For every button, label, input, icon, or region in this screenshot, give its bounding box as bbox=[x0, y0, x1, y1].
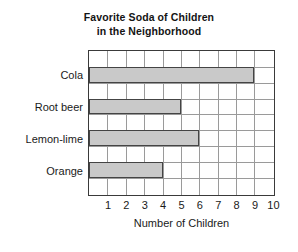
bar-orange bbox=[89, 162, 163, 178]
gridline-y-4 bbox=[89, 114, 274, 115]
chart-title: Favorite Soda of Children in the Neighbo… bbox=[0, 11, 298, 38]
plot-area bbox=[88, 50, 275, 196]
gridline-x-9 bbox=[254, 51, 255, 195]
y-label-orange: Orange bbox=[0, 165, 83, 177]
plot-inner bbox=[89, 51, 274, 195]
gridline-y-6 bbox=[89, 146, 274, 147]
x-tick-10: 10 bbox=[260, 199, 286, 212]
bar-root-beer bbox=[89, 99, 181, 115]
bar-cola bbox=[89, 67, 254, 83]
y-label-cola: Cola bbox=[0, 69, 83, 81]
y-label-lemon-lime: Lemon-lime bbox=[0, 133, 83, 145]
x-axis-title: Number of Children bbox=[88, 216, 275, 230]
bar-lemon-lime bbox=[89, 130, 199, 146]
chart-title-line-1: Favorite Soda of Children bbox=[0, 11, 298, 25]
gridline-y-8 bbox=[89, 178, 274, 179]
gridline-y-2 bbox=[89, 83, 274, 84]
chart-title-line-2: in the Neighborhood bbox=[0, 25, 298, 39]
y-label-root-beer: Root beer bbox=[0, 101, 83, 113]
bar-chart: Favorite Soda of Children in the Neighbo… bbox=[0, 0, 298, 252]
